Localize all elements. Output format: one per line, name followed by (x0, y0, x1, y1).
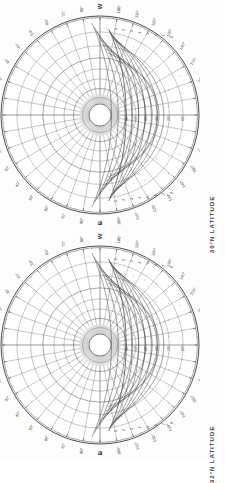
azimuth-tick-label: 70° (60, 10, 66, 17)
altitude-label: 20° (167, 115, 171, 121)
azimuth-tick-label: 140° (178, 179, 186, 189)
azimuth-tick-label: 30° (3, 287, 11, 295)
azimuth-tick-label: 80° (79, 5, 85, 12)
azimuth-tick-label: 70° (60, 212, 66, 219)
azimuth-tick-label: 30° (3, 57, 11, 65)
chart-svg: N10°10°20°20°30°30°40°40°50°50°60°60°70°… (0, 230, 200, 460)
azimuth-tick-label: 150° (189, 56, 198, 66)
azimuth-tick-label: 80° (79, 217, 85, 224)
hour-angle-label: 8 (170, 266, 174, 268)
hour-angle-label: 2 (122, 429, 126, 431)
cardinal-label: W (97, 233, 103, 239)
hour-angle-label: 7 (162, 423, 166, 425)
azimuth-tick-label: 40° (14, 272, 21, 280)
azimuth-tick-label: 160° (196, 73, 200, 83)
hour-angle-label: 3 (130, 428, 134, 430)
hour-angle-label: 5 (146, 263, 150, 265)
azimuth-tick-label: 140° (178, 41, 186, 51)
hour-angle-label: 2 (122, 199, 126, 201)
star-finder-chart-32n: N10°10°20°20°30°30°40°40°50°50°60°60°70°… (0, 230, 225, 460)
azimuth-tick-label: 60° (43, 204, 50, 212)
azimuth-tick-label: 160° (196, 147, 200, 157)
azimuth-tick-label: 40° (14, 180, 21, 188)
hour-angle-label: 7 (162, 35, 166, 37)
azimuth-tick-label: 120° (150, 433, 157, 443)
hour-angle-label: 6 (154, 34, 158, 36)
altitude-label: 10° (181, 345, 185, 351)
azimuth-tick-label: 60° (43, 18, 50, 26)
azimuth-tick-label: 50° (27, 29, 34, 37)
altitude-label: 60° (125, 345, 129, 351)
azimuth-tick-label: 60° (43, 434, 50, 442)
azimuth-tick-label: 130° (165, 28, 173, 38)
azimuth-tick-label: 110° (134, 9, 141, 18)
cardinal-label: E (97, 221, 103, 225)
azimuth-tick-label: 20° (0, 148, 3, 156)
hour-angle-label: 4 (138, 197, 142, 199)
azimuth-tick-label: 110° (133, 441, 140, 450)
azimuth-tick-label: 20° (0, 378, 3, 386)
hour-angle-label: 1 (114, 430, 118, 432)
azimuth-tick-label: 70° (60, 240, 66, 247)
chart-caption-label-32n: 32°N LATITUDE (209, 426, 216, 483)
hour-angle-label: 1 (114, 200, 118, 202)
azimuth-tick-label: 120° (150, 247, 157, 257)
hour-angle-label: 1 (114, 258, 118, 260)
altitude-label: 20° (167, 345, 171, 351)
azimuth-tick-label: 30° (3, 395, 11, 403)
azimuth-tick-label: 140° (178, 271, 186, 281)
azimuth-tick-label: 20° (0, 304, 3, 312)
azimuth-tick-label: 100° (116, 446, 122, 455)
azimuth-tick-label: 50° (27, 423, 34, 431)
altitude-label: 50° (134, 115, 138, 121)
hour-angle-label: 6 (154, 264, 158, 266)
hour-angle-label: 3 (130, 30, 134, 32)
azimuth-tick-label: 80° (79, 235, 85, 242)
star-finder-chart-30n: N10°10°20°20°30°30°40°40°50°50°60°60°70°… (0, 0, 225, 230)
hour-angle-label: 1 (114, 28, 118, 30)
hour-angle-label: 5 (146, 195, 150, 197)
azimuth-tick-label: 30° (3, 165, 11, 173)
hour-angle-label: 5 (146, 33, 150, 35)
azimuth-tick-label: 150° (189, 164, 198, 174)
hour-angle-label: 2 (122, 29, 126, 31)
hour-angle-label: 7 (162, 193, 166, 195)
chart-caption-32n: 32°N LATITUDE (201, 346, 223, 458)
altitude-label: 30° (155, 345, 159, 351)
chart-svg: N10°10°20°20°30°30°40°40°50°50°60°60°70°… (0, 0, 200, 230)
azimuth-tick-label: 110° (134, 239, 141, 248)
chart-canvas-30n: N10°10°20°20°30°30°40°40°50°50°60°60°70°… (0, 0, 200, 230)
hour-angle-label: 8 (170, 192, 174, 194)
hour-angle-label: 3 (130, 198, 134, 200)
azimuth-tick-label: 60° (43, 248, 50, 256)
azimuth-tick-label: 70° (60, 442, 66, 449)
azimuth-tick-label: 130° (165, 258, 173, 268)
hour-angle-label: 5 (146, 425, 150, 427)
hour-angle-label: 7 (162, 265, 166, 267)
altitude-label: 50° (134, 345, 138, 351)
hour-angle-label: 4 (138, 31, 142, 33)
azimuth-tick-label: 160° (196, 377, 200, 387)
altitude-label: 40° (144, 115, 148, 121)
azimuth-tick-label: 40° (14, 410, 21, 418)
chart-caption-30n: 30°N LATITUDE (201, 116, 223, 228)
azimuth-tick-label: 40° (14, 42, 21, 50)
hour-angle-label: 4 (138, 261, 142, 263)
hour-angle-label: 4 (138, 427, 142, 429)
altitude-label: 60° (125, 115, 129, 121)
azimuth-tick-label: 50° (27, 193, 34, 201)
azimuth-tick-label: 120° (150, 17, 157, 27)
azimuth-tick-label: 110° (133, 211, 140, 220)
hour-angle-label: 8 (170, 422, 174, 424)
azimuth-tick-label: 150° (189, 394, 198, 404)
cardinal-label: E (97, 451, 103, 455)
azimuth-tick-label: 160° (196, 303, 200, 313)
azimuth-tick-label: 20° (0, 74, 3, 82)
cardinal-label: W (97, 3, 103, 9)
azimuth-tick-label: 100° (116, 216, 122, 225)
azimuth-tick-label: 120° (150, 203, 157, 213)
azimuth-tick-label: 150° (189, 286, 198, 296)
hour-angle-label: 3 (130, 260, 134, 262)
hour-angle-label: 8 (170, 36, 174, 38)
